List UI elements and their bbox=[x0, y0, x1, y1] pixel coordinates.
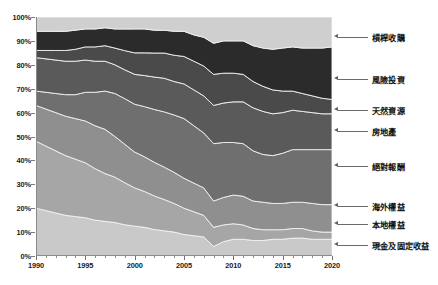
x-tick-label: 2000 bbox=[127, 261, 143, 270]
legend-leader-line bbox=[338, 245, 368, 246]
chart-root: 0%10%20%30%40%50%60%70%80%90%100% 199019… bbox=[0, 0, 438, 285]
y-tick-label: 30% bbox=[0, 180, 31, 189]
x-tick-minor bbox=[293, 256, 294, 258]
legend-label[interactable]: 本地權益 bbox=[372, 218, 405, 230]
x-tick-major bbox=[135, 256, 136, 260]
x-tick-minor bbox=[302, 256, 303, 258]
y-tick-mark bbox=[31, 256, 35, 257]
legend-leader-line bbox=[338, 79, 368, 80]
x-tick-minor bbox=[95, 256, 96, 258]
legend-label[interactable]: 風險投資 bbox=[372, 73, 405, 85]
y-tick-label: 80% bbox=[0, 60, 31, 69]
x-tick-label: 2005 bbox=[176, 261, 192, 270]
legend-label[interactable]: 天然資源 bbox=[372, 104, 405, 116]
x-tick-major bbox=[36, 256, 37, 260]
y-tick-mark bbox=[31, 160, 35, 161]
x-tick-major bbox=[233, 256, 234, 260]
x-tick-major bbox=[332, 256, 333, 260]
x-tick-minor bbox=[174, 256, 175, 258]
x-tick-minor bbox=[214, 256, 215, 258]
x-tick-minor bbox=[154, 256, 155, 258]
x-tick-minor bbox=[322, 256, 323, 258]
y-tick-label: 0% bbox=[0, 252, 31, 261]
x-tick-minor bbox=[223, 256, 224, 258]
x-tick-minor bbox=[194, 256, 195, 258]
y-tick-label: 40% bbox=[0, 156, 31, 165]
legend-label[interactable]: 絕對報酬 bbox=[372, 160, 405, 172]
y-tick-mark bbox=[31, 17, 35, 18]
x-tick-minor bbox=[204, 256, 205, 258]
x-tick-label: 1990 bbox=[28, 261, 44, 270]
y-tick-label: 60% bbox=[0, 108, 31, 117]
x-tick-minor bbox=[125, 256, 126, 258]
x-tick-minor bbox=[46, 256, 47, 258]
y-tick-mark bbox=[31, 41, 35, 42]
legend-leader-line bbox=[338, 166, 368, 167]
x-tick-major bbox=[184, 256, 185, 260]
x-tick-major bbox=[85, 256, 86, 260]
x-tick-minor bbox=[66, 256, 67, 258]
x-tick-major bbox=[283, 256, 284, 260]
x-tick-minor bbox=[263, 256, 264, 258]
x-tick-label: 2010 bbox=[225, 261, 241, 270]
x-tick-minor bbox=[253, 256, 254, 258]
legend-leader-line bbox=[338, 110, 368, 111]
x-tick-minor bbox=[243, 256, 244, 258]
x-tick-minor bbox=[312, 256, 313, 258]
y-tick-label: 20% bbox=[0, 204, 31, 213]
y-tick-label: 70% bbox=[0, 84, 31, 93]
legend-leader-line bbox=[338, 206, 368, 207]
legend-leader-line bbox=[338, 37, 368, 38]
x-tick-minor bbox=[273, 256, 274, 258]
plot-area bbox=[36, 17, 332, 256]
y-tick-mark bbox=[31, 65, 35, 66]
y-tick-mark bbox=[31, 184, 35, 185]
y-tick-mark bbox=[31, 113, 35, 114]
y-tick-mark bbox=[31, 208, 35, 209]
legend-label[interactable]: 現金及固定收益 bbox=[372, 239, 429, 251]
x-tick-minor bbox=[75, 256, 76, 258]
y-tick-label: 90% bbox=[0, 36, 31, 45]
legend-leader-line bbox=[338, 131, 368, 132]
y-tick-label: 10% bbox=[0, 228, 31, 237]
x-tick-minor bbox=[145, 256, 146, 258]
x-tick-label: 2015 bbox=[275, 261, 291, 270]
legend-label[interactable]: 槓桿收購 bbox=[372, 31, 405, 43]
x-tick-minor bbox=[115, 256, 116, 258]
legend-label[interactable]: 房地產 bbox=[372, 125, 397, 137]
legend-label[interactable]: 海外權益 bbox=[372, 200, 405, 212]
x-tick-label: 2020 bbox=[324, 261, 340, 270]
x-tick-minor bbox=[56, 256, 57, 258]
x-tick-minor bbox=[164, 256, 165, 258]
y-tick-label: 100% bbox=[0, 13, 31, 22]
x-tick-label: 1995 bbox=[77, 261, 93, 270]
plot-frame bbox=[36, 17, 332, 256]
legend-leader-line bbox=[338, 224, 368, 225]
x-tick-minor bbox=[105, 256, 106, 258]
y-tick-mark bbox=[31, 89, 35, 90]
y-tick-label: 50% bbox=[0, 132, 31, 141]
y-tick-mark bbox=[31, 137, 35, 138]
y-tick-mark bbox=[31, 232, 35, 233]
